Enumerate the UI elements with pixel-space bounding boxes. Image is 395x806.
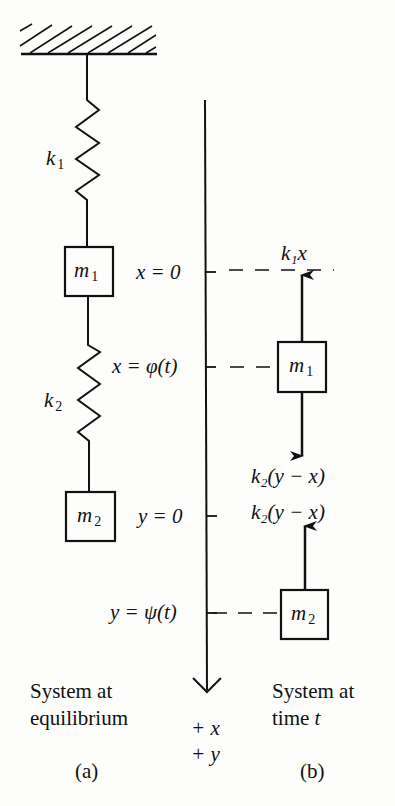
axis-direction-x: + x	[191, 718, 220, 739]
force-label-k2-m2: k₂(y − x)	[251, 502, 325, 523]
tick-label-y0: y = 0	[138, 506, 183, 527]
tick-label-xphi: x = φ(t)	[112, 356, 177, 377]
mass-m2-label-b: m2	[291, 603, 315, 624]
caption-a: System at equilibrium	[30, 678, 128, 732]
force-label-k1x: k₁x	[281, 243, 307, 264]
tick-label-ypsi: y = ψ(t)	[110, 602, 177, 623]
caption-b: System at time t	[272, 678, 354, 732]
axis-direction-y: + y	[191, 744, 220, 765]
mass-m1-label-a: m1	[74, 260, 98, 281]
tick-label-x0: x = 0	[136, 262, 181, 283]
spring-k1-label: k1	[46, 148, 64, 169]
panel-label-b: (b)	[300, 758, 325, 785]
mass-m2-label-a: m2	[77, 505, 101, 526]
panel-label-a: (a)	[75, 758, 98, 785]
ceiling-support	[20, 24, 157, 54]
force-label-k2-m1: k₂(y − x)	[251, 466, 325, 487]
spring-k1	[76, 55, 99, 247]
spring-k2-label: k2	[44, 390, 62, 411]
spring-k2	[78, 296, 100, 492]
mass-m1-label-b: m1	[289, 355, 313, 376]
